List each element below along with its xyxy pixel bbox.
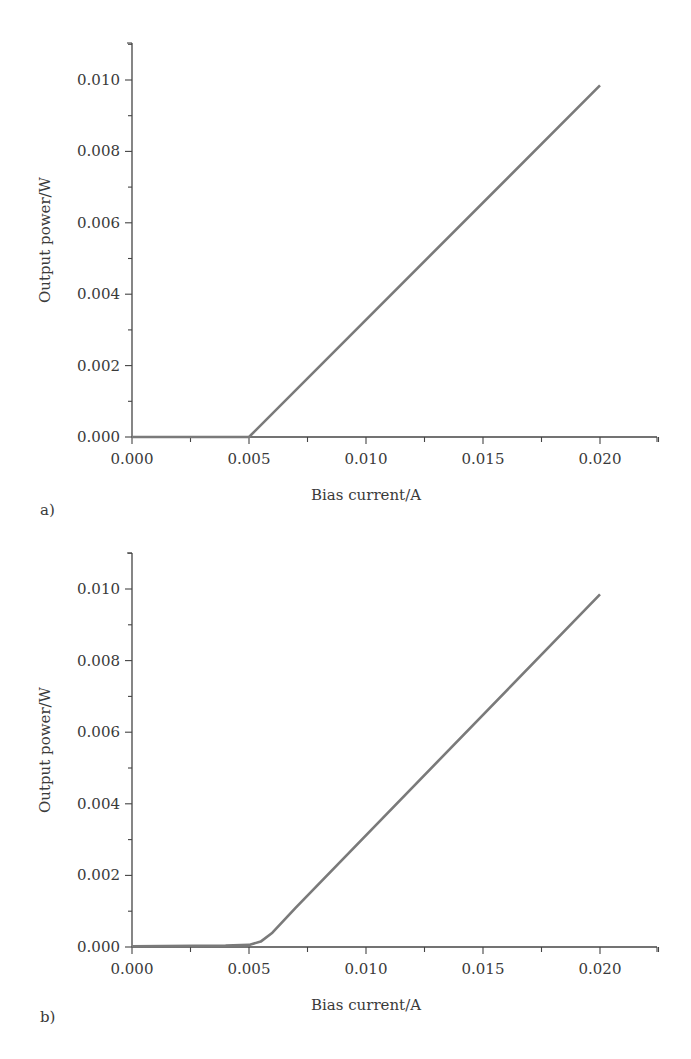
panel-label: b) (40, 1008, 55, 1026)
data-line (132, 85, 600, 437)
x-tick-label: 0.000 (111, 960, 154, 978)
x-tick-label: 0.010 (345, 450, 388, 468)
y-tick-label: 0.006 (77, 723, 120, 741)
y-axis-title: Output power/W (36, 176, 54, 303)
y-tick-label: 0.010 (77, 71, 120, 89)
x-tick-label: 0.005 (228, 960, 271, 978)
y-tick-label: 0.008 (77, 142, 120, 160)
figure: 0.0000.0020.0040.0060.0080.0100.0000.005… (0, 0, 691, 1059)
y-tick-label: 0.004 (77, 795, 120, 813)
y-tick-label: 0.000 (77, 938, 120, 956)
y-tick-label: 0.002 (77, 357, 120, 375)
data-line (132, 594, 600, 946)
y-tick-label: 0.000 (77, 428, 120, 446)
x-tick-label: 0.020 (579, 450, 622, 468)
x-tick-label: 0.005 (228, 450, 271, 468)
y-tick-label: 0.004 (77, 285, 120, 303)
x-tick-label: 0.015 (462, 450, 505, 468)
x-tick-label: 0.020 (579, 960, 622, 978)
x-axis-title: Bias current/A (311, 486, 421, 504)
x-tick-label: 0.010 (345, 960, 388, 978)
y-axis-title: Output power/W (36, 686, 54, 813)
y-tick-label: 0.006 (77, 214, 120, 232)
panel-label: a) (40, 501, 55, 519)
x-tick-label: 0.015 (462, 960, 505, 978)
x-tick-label: 0.000 (111, 450, 154, 468)
chart-panel-a: 0.0000.0020.0040.0060.0080.0100.0000.005… (36, 43, 659, 519)
y-tick-label: 0.008 (77, 652, 120, 670)
x-axis-title: Bias current/A (311, 996, 421, 1014)
y-tick-label: 0.002 (77, 866, 120, 884)
y-tick-label: 0.010 (77, 580, 120, 598)
chart-panel-b: 0.0000.0020.0040.0060.0080.0100.0000.005… (36, 553, 659, 1026)
